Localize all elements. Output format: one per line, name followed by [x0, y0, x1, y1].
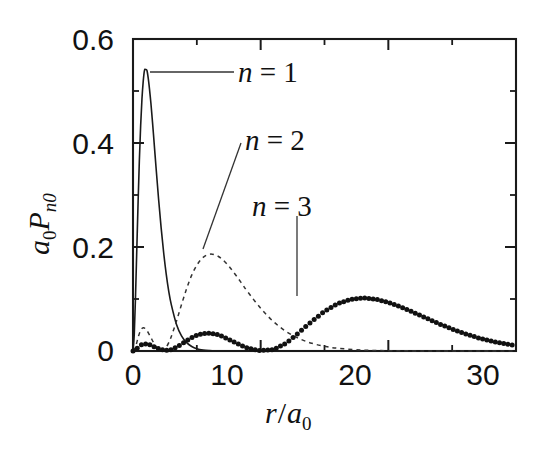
curve-n3-marker — [501, 341, 506, 346]
curve-n3-marker — [131, 349, 136, 354]
curve-n1 — [133, 69, 516, 351]
plot-area — [0, 0, 558, 451]
curve-n3-marker — [286, 338, 291, 343]
curve-n3-marker — [379, 298, 384, 303]
curve-n3-marker — [350, 297, 355, 302]
curve-n3-marker — [493, 339, 498, 344]
curve-n3-marker — [371, 296, 376, 301]
curve-n3-marker — [472, 334, 477, 339]
curve-n3-marker — [329, 305, 334, 310]
curve-n3-marker — [510, 342, 515, 347]
curve-n3-marker — [291, 335, 296, 340]
annotation-leaders — [150, 72, 297, 296]
curve-n3-marker — [253, 347, 258, 352]
curve-n3-marker — [375, 297, 380, 302]
curve-n3-marker — [181, 340, 186, 345]
leader-line-n2 — [203, 143, 241, 249]
curve-n3-marker — [324, 308, 329, 313]
curve-n3-marker — [383, 299, 388, 304]
curve-n3-marker — [476, 335, 481, 340]
curve-n3-marker — [362, 296, 367, 301]
curve-n3-marker — [156, 346, 161, 351]
axis-ticks — [133, 39, 516, 351]
plot-frame — [133, 39, 516, 351]
curve-n3-marker — [248, 346, 253, 351]
curve-n3-marker — [299, 328, 304, 333]
curve-n3-marker — [282, 341, 287, 346]
curve-n3-marker — [295, 331, 300, 336]
curve-n3-marker — [468, 333, 473, 338]
curve-n3-marker — [480, 336, 485, 341]
curve-n3-marker — [143, 342, 148, 347]
curve-n3-marker — [303, 324, 308, 329]
curve-n3-marker — [497, 340, 502, 345]
curve-n3-marker — [135, 346, 140, 351]
curve-n3-marker — [164, 348, 169, 353]
curve-n3-marker — [206, 331, 211, 336]
figure-container: 0.6 0.4 0.2 0 0 10 20 30 r/a0 a0Pn0 n = … — [0, 0, 558, 451]
curve-n3-marker — [505, 342, 510, 347]
curve-n3-marker — [173, 345, 178, 350]
curve-n3-marker — [185, 338, 190, 343]
curve-n3-marker — [489, 339, 494, 344]
curve-n3-marker — [211, 331, 216, 336]
curve-n3-marker — [354, 296, 359, 301]
curve-n3-marker — [345, 298, 350, 303]
curve-n3-marker — [177, 343, 182, 348]
curve-n3-marker — [274, 346, 279, 351]
curve-n3-marker — [484, 338, 489, 343]
curve-n3-marker — [316, 314, 321, 319]
curve-n3-marker — [198, 332, 203, 337]
curve-n3-marker — [320, 310, 325, 315]
curve-n3-marker — [312, 317, 317, 322]
curve-n3-marker — [139, 342, 144, 347]
curve-n3-marker — [307, 320, 312, 325]
curve-n3-marker — [244, 345, 249, 350]
curve-n3-marker — [194, 333, 199, 338]
